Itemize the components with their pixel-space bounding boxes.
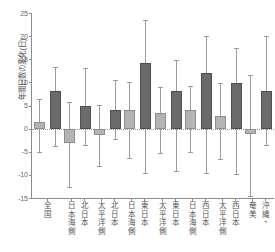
error-bar-cap <box>127 82 132 83</box>
error-bar-cap <box>113 139 118 140</box>
bar-light <box>155 113 166 128</box>
error-bar-cap <box>37 152 42 153</box>
error-bar-cap <box>234 174 239 175</box>
error-bar-cap <box>97 166 102 167</box>
error-bar-cap <box>127 158 132 159</box>
x-tick-label: 東日本 <box>168 201 179 227</box>
y-tick-mark <box>29 13 32 14</box>
error-bar-cap <box>264 36 269 37</box>
x-tick-label: 太平洋側 <box>216 201 227 235</box>
y-tick-mark <box>29 152 32 153</box>
bar-light <box>124 110 135 129</box>
y-tick-label: -15 <box>10 195 28 202</box>
x-tick-label: 西日本 <box>229 201 240 227</box>
error-bar-cap <box>188 86 193 87</box>
x-tick-label: 太平洋側 <box>95 201 106 235</box>
error-bar-cap <box>248 196 253 197</box>
y-tick-mark <box>29 106 32 107</box>
bar-light <box>185 110 196 129</box>
error-bar <box>250 75 251 196</box>
y-tick-label: 0 <box>10 125 28 132</box>
x-tick-label: 北日本 <box>77 201 88 227</box>
x-tick-label: 全国 <box>41 201 52 218</box>
x-tick-label: 奄美 <box>246 201 257 218</box>
bar-dark <box>110 110 121 129</box>
x-tick-label: 太平洋側 <box>155 201 166 235</box>
bar-dark <box>231 83 242 129</box>
error-bar-cap <box>53 146 58 147</box>
bar-dark <box>171 91 182 128</box>
error-bar-cap <box>218 159 223 160</box>
error-bar-cap <box>158 87 163 88</box>
bar-dark <box>140 63 151 129</box>
y-tick-mark <box>29 82 32 83</box>
error-bar-cap <box>174 60 179 61</box>
x-axis-line <box>32 198 274 199</box>
bar-dark <box>50 91 61 128</box>
error-bar-cap <box>174 171 179 172</box>
error-bar-cap <box>264 145 269 146</box>
error-bar-cap <box>83 145 88 146</box>
error-bar-cap <box>204 36 209 37</box>
y-tick-mark <box>29 198 32 199</box>
error-bar-cap <box>158 153 163 154</box>
error-bar-cap <box>83 68 88 69</box>
error-bar-cap <box>188 152 193 153</box>
y-tick-mark <box>29 175 32 176</box>
chart-container: 年間日数の変化(日) -15-10-50510152025 全国日本海側北日本太… <box>0 0 275 252</box>
x-tick-label: 西日本 <box>198 201 209 227</box>
x-tick-label: 沖縄・ <box>259 201 270 227</box>
y-tick-mark <box>29 59 32 60</box>
bar-light <box>94 129 105 135</box>
x-tick-label: 日本海側 <box>185 201 196 235</box>
error-bar-cap <box>143 20 148 21</box>
y-tick-mark <box>29 36 32 37</box>
y-tick-label: 15 <box>10 56 28 63</box>
y-tick-label: 5 <box>10 102 28 109</box>
y-tick-label: -10 <box>10 171 28 178</box>
bar-dark <box>261 91 272 128</box>
error-bar-cap <box>67 187 72 188</box>
error-bar <box>69 102 70 188</box>
y-tick-label: -5 <box>10 148 28 155</box>
y-tick-label: 10 <box>10 79 28 86</box>
bar-light <box>34 122 45 129</box>
y-tick-label: 20 <box>10 33 28 40</box>
x-tick-label: 北日本 <box>108 201 119 227</box>
error-bar-cap <box>143 173 148 174</box>
bar-dark <box>201 73 212 129</box>
bar-light <box>215 116 226 128</box>
error-bar-cap <box>204 173 209 174</box>
bar-light <box>64 129 75 144</box>
plot-area <box>31 13 273 198</box>
error-bar-cap <box>67 102 72 103</box>
x-tick-label: 日本海側 <box>64 201 75 235</box>
y-axis-tick-labels: -15-10-50510152025 <box>4 0 28 252</box>
error-bar <box>99 105 100 167</box>
x-tick-label: 東日本 <box>138 201 149 227</box>
x-tick-label: 日本海側 <box>125 201 136 235</box>
error-bar-cap <box>113 80 118 81</box>
bar-dark <box>80 106 91 128</box>
error-bar-cap <box>248 75 253 76</box>
error-bar-cap <box>37 99 42 100</box>
error-bar-cap <box>53 67 58 68</box>
y-tick-label: 25 <box>10 10 28 17</box>
error-bar-cap <box>218 83 223 84</box>
error-bar-cap <box>234 48 239 49</box>
bar-light <box>245 129 256 135</box>
error-bar-cap <box>97 105 102 106</box>
